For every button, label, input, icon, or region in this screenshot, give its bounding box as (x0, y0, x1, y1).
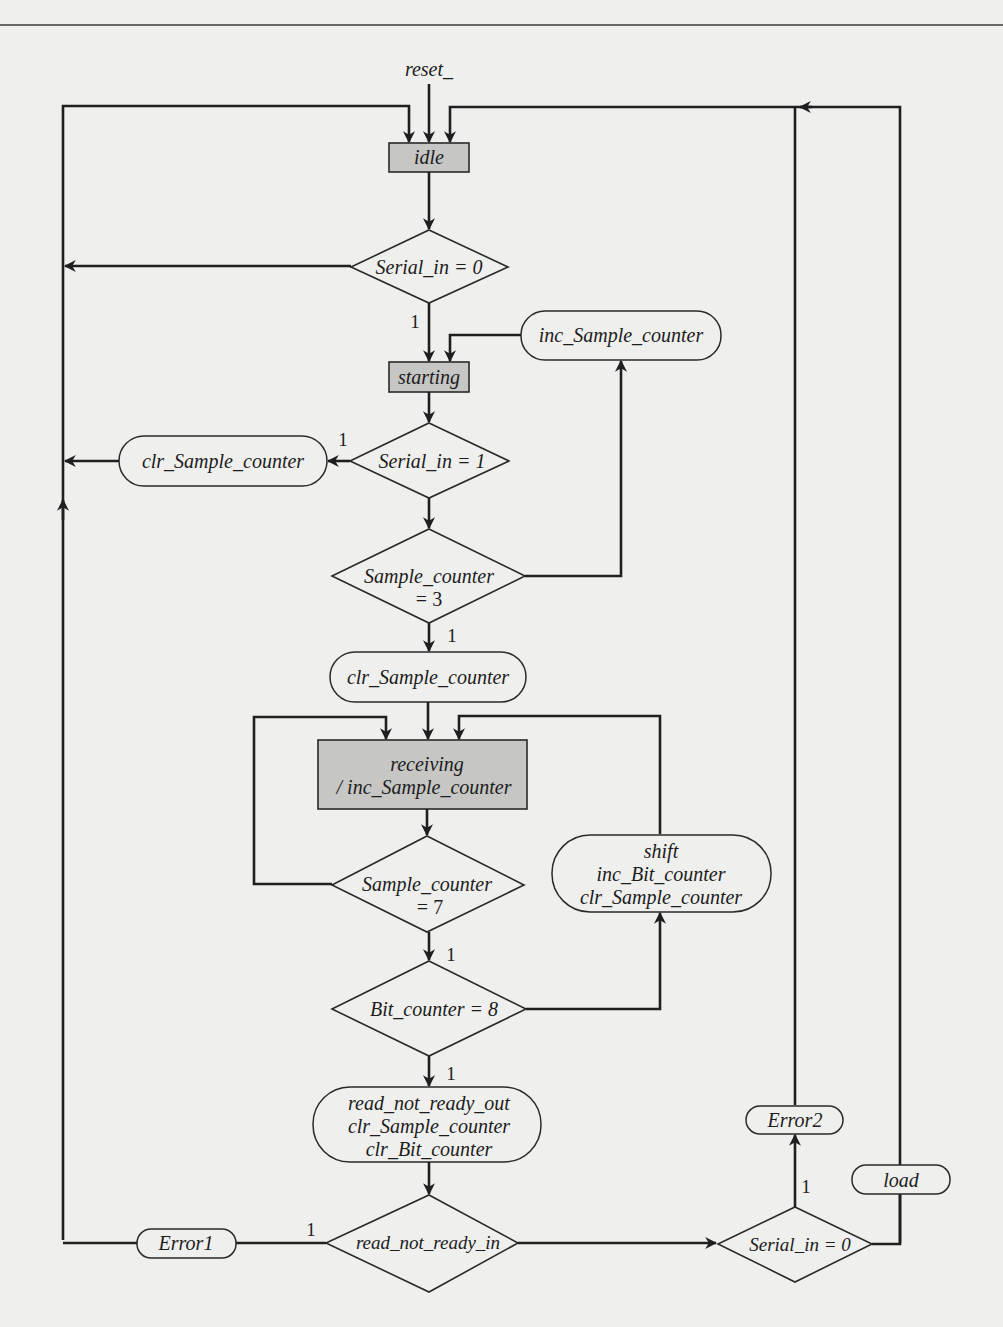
svg-text:shift: shift (644, 840, 679, 863)
decision-bit-counter-8: Bit_counter = 8 (332, 961, 526, 1056)
decision-read-not-ready-in: read_not_ready_in (326, 1195, 518, 1292)
state-starting: starting (389, 362, 469, 392)
svg-text:starting: starting (398, 366, 460, 389)
decision-serial-in-0-bottom: Serial_in = 0 (718, 1207, 872, 1282)
output-shift: shift inc_Bit_counter clr_Sample_counter (552, 835, 771, 912)
decision-sample-counter-7: Sample_counter = 7 (332, 836, 524, 932)
svg-text:load: load (883, 1169, 920, 1191)
output-error1: Error1 (137, 1229, 236, 1258)
branch-label-1: 1 (447, 625, 457, 646)
svg-text:Bit_counter = 8: Bit_counter = 8 (370, 998, 498, 1020)
branch-label-1: 1 (410, 311, 420, 332)
asmd-flowchart: reset_ idle Serial_in = 0 1 inc_Sample_c… (0, 0, 1003, 1327)
state-receiving: receiving / inc_Sample_counter (318, 740, 527, 809)
output-error2: Error2 (746, 1106, 843, 1134)
decision-serial-in-1: Serial_in = 1 (350, 423, 509, 498)
svg-text:inc_Bit_counter: inc_Bit_counter (597, 863, 726, 885)
output-read-not-ready-out: read_not_ready_out clr_Sample_counter cl… (313, 1087, 541, 1162)
branch-label-1: 1 (338, 429, 348, 450)
svg-text:Sample_counter: Sample_counter (362, 873, 492, 896)
sample-counter-3-false-to-inc (525, 361, 621, 576)
svg-text:read_not_ready_out: read_not_ready_out (348, 1092, 510, 1115)
output-load: load (852, 1165, 950, 1194)
svg-text:/ inc_Sample_counter: / inc_Sample_counter (336, 776, 512, 799)
bit-counter-8-false-to-shift (526, 913, 660, 1009)
svg-text:idle: idle (414, 146, 444, 168)
svg-text:receiving: receiving (390, 753, 464, 776)
svg-text:Error1: Error1 (158, 1232, 214, 1254)
serial-in-0-bottom-false-line (872, 1193, 900, 1244)
branch-label-1: 1 (801, 1176, 811, 1197)
svg-text:= 7: = 7 (417, 896, 443, 918)
decision-sample-counter-3: Sample_counter = 3 (332, 529, 525, 623)
output-clr-sample-counter-left: clr_Sample_counter (119, 436, 327, 486)
inc-sample-to-starting (450, 335, 521, 361)
reset-label: reset_ (405, 58, 454, 80)
branch-label-1: 1 (446, 1063, 456, 1084)
svg-text:clr_Sample_counter: clr_Sample_counter (580, 886, 742, 909)
svg-text:inc_Sample_counter: inc_Sample_counter (539, 324, 704, 347)
svg-text:Serial_in = 0: Serial_in = 0 (749, 1234, 851, 1255)
state-idle: idle (389, 143, 469, 172)
svg-text:read_not_ready_in: read_not_ready_in (356, 1232, 500, 1253)
svg-text:= 3: = 3 (416, 588, 442, 610)
output-clr-sample-counter-mid: clr_Sample_counter (330, 652, 526, 702)
svg-text:Sample_counter: Sample_counter (364, 565, 494, 588)
svg-text:clr_Bit_counter: clr_Bit_counter (366, 1138, 493, 1160)
svg-text:Error2: Error2 (767, 1109, 823, 1131)
svg-text:Serial_in = 0: Serial_in = 0 (376, 256, 483, 278)
svg-text:clr_Sample_counter: clr_Sample_counter (348, 1115, 510, 1138)
svg-text:Serial_in = 1: Serial_in = 1 (379, 450, 486, 472)
output-inc-sample-counter: inc_Sample_counter (521, 311, 721, 360)
branch-label-1: 1 (306, 1219, 316, 1240)
decision-serial-in-0-top: Serial_in = 0 (351, 230, 508, 303)
svg-text:clr_Sample_counter: clr_Sample_counter (347, 666, 509, 689)
svg-text:clr_Sample_counter: clr_Sample_counter (142, 450, 304, 473)
branch-label-1: 1 (446, 944, 456, 965)
